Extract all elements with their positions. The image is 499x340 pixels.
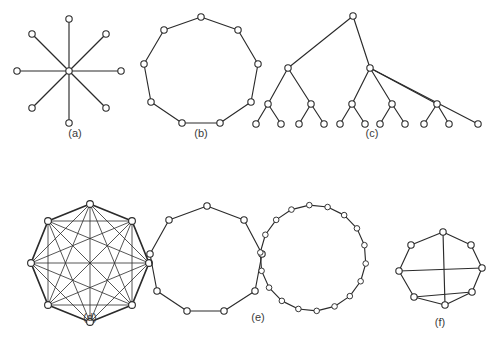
- cycle-edge: [164, 17, 201, 30]
- chorded-cycle-edge: [472, 268, 482, 292]
- tree-edge: [353, 16, 370, 68]
- panel-label-e: (e): [251, 311, 264, 323]
- cycle-vertex: [248, 99, 254, 105]
- left-cycle-vertex: [241, 217, 247, 223]
- complete-graph-vertex: [129, 302, 136, 309]
- right-cycle-vertex: [289, 207, 295, 213]
- right-cycle-vertex: [257, 250, 263, 256]
- chorded-cycle-vertex: [411, 294, 417, 300]
- left-cycle-vertex: [147, 251, 153, 257]
- tree-edge: [370, 68, 478, 124]
- chorded-cycle-edge: [399, 245, 411, 271]
- chorded-cycle-vertex: [479, 265, 485, 271]
- tree-vertex: [337, 121, 343, 127]
- star-spoke-edge: [32, 71, 69, 108]
- left-cycle-edge: [207, 206, 244, 220]
- left-cycle-vertex: [184, 308, 190, 314]
- cycle-edge: [144, 30, 164, 64]
- right-cycle-vertex: [362, 242, 368, 248]
- chorded-cycle-vertex: [408, 242, 414, 248]
- chorded-cycle-vertex: [442, 302, 448, 308]
- tree-edge: [352, 68, 370, 104]
- star-center-vertex: [66, 68, 72, 74]
- panel-label-b: (b): [194, 127, 207, 139]
- tree-vertex: [296, 121, 302, 127]
- cycle-vertex: [141, 61, 147, 67]
- panel-label-f: (f): [435, 316, 445, 328]
- chorded-cycle-vertex: [469, 289, 475, 295]
- cycle-edge: [238, 30, 258, 64]
- left-cycle-vertex: [252, 288, 258, 294]
- complete-graph-vertex: [129, 218, 136, 225]
- cycle-edge: [220, 102, 251, 123]
- right-cycle-vertex: [325, 204, 331, 210]
- complete-graph-vertex: [45, 218, 52, 225]
- right-cycle-vertex: [273, 217, 279, 223]
- complete-graph-vertex: [87, 201, 94, 208]
- cycle-edge: [151, 102, 182, 123]
- chorded-cycle-edge: [411, 232, 443, 245]
- panel-b-cycle-graph: [141, 14, 261, 126]
- right-cycle-vertex: [314, 308, 320, 314]
- tree-vertex: [285, 65, 291, 71]
- left-cycle-vertex: [204, 203, 210, 209]
- star-outer-vertex: [66, 16, 72, 22]
- right-cycle-vertex: [296, 306, 302, 312]
- panel-label-d: (d): [83, 311, 96, 323]
- left-cycle-vertex: [154, 288, 160, 294]
- panel-f-cycle-with-chords: [396, 229, 485, 308]
- chorded-cycle-edge: [414, 297, 445, 305]
- complete-graph-vertex: [45, 302, 52, 309]
- tree-vertex: [308, 101, 314, 107]
- tree-vertex: [265, 101, 271, 107]
- right-cycle-vertex: [341, 212, 347, 218]
- tree-vertex: [389, 101, 395, 107]
- cycle-vertex: [179, 120, 185, 126]
- left-cycle-vertex: [221, 308, 227, 314]
- star-outer-vertex: [103, 31, 109, 37]
- star-outer-vertex: [29, 31, 35, 37]
- panel-c-tree-graph: [253, 13, 481, 127]
- tree-vertex: [350, 13, 356, 19]
- figure-plate: (a)(b)(c)(d)(e)(f): [0, 0, 499, 340]
- cycle-vertex: [255, 61, 261, 67]
- panel-label-c: (c): [366, 127, 379, 139]
- right-cycle-vertex: [332, 304, 338, 310]
- star-spoke-edge: [69, 34, 106, 71]
- cycle-edge: [144, 64, 151, 102]
- left-cycle-edge: [150, 220, 169, 254]
- tree-edge: [268, 68, 288, 104]
- tree-vertex: [321, 121, 327, 127]
- chorded-cycle-vertex: [396, 268, 402, 274]
- right-cycle-vertex: [266, 285, 272, 291]
- tree-vertex: [475, 121, 481, 127]
- tree-vertex: [446, 121, 452, 127]
- tree-vertex: [402, 121, 408, 127]
- left-cycle-edge: [169, 206, 207, 220]
- star-outer-vertex: [118, 68, 124, 74]
- left-cycle-edge: [244, 220, 262, 254]
- left-cycle-edge: [150, 254, 157, 291]
- left-cycle-edge: [224, 291, 255, 311]
- tree-vertex: [434, 101, 440, 107]
- panel-label-a: (a): [68, 127, 81, 139]
- right-cycle-vertex: [354, 226, 360, 232]
- chorded-cycle-vertex: [468, 242, 474, 248]
- right-cycle-vertex: [358, 278, 364, 284]
- tree-edge: [288, 68, 311, 104]
- tree-vertex: [421, 121, 427, 127]
- tree-vertex: [253, 121, 259, 127]
- chorded-cycle-edge: [443, 232, 471, 245]
- cycle-edge: [201, 17, 238, 30]
- cycle-vertex: [198, 14, 204, 20]
- tree-vertex: [278, 121, 284, 127]
- cycle-vertex: [161, 27, 167, 33]
- left-cycle-vertex: [166, 217, 172, 223]
- chorded-cycle-vertex: [440, 229, 446, 235]
- graph-plate-svg: (a)(b)(c)(d)(e)(f): [0, 0, 499, 340]
- tree-edge: [288, 16, 353, 68]
- chorded-cycle-edge: [399, 271, 414, 297]
- star-spoke-edge: [69, 71, 106, 108]
- cycle-vertex: [235, 27, 241, 33]
- star-spoke-edge: [32, 34, 69, 71]
